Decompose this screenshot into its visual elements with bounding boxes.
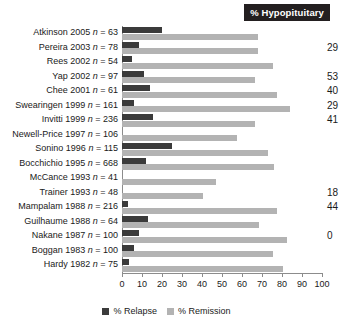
bar-relapse <box>122 71 144 77</box>
study-label: Invitti 1999 n = 236 <box>42 115 118 124</box>
bar-relapse <box>122 143 172 149</box>
study-label: Swearingen 1999 n = 161 <box>15 101 118 110</box>
bar-relapse <box>122 259 129 265</box>
x-axis-tick-label: 20 <box>157 279 167 289</box>
x-axis-tick-label: 60 <box>237 279 247 289</box>
study-label: Pereira 2003 n = 78 <box>39 43 118 52</box>
chart-row: Chee 2001 n = 6140 <box>122 85 322 100</box>
study-label: Newell-Price 1997 n = 106 <box>12 130 118 139</box>
bar-relapse <box>122 85 150 91</box>
study-label: Guilhaume 1988 n = 64 <box>24 217 118 226</box>
x-axis-tick-label: 70 <box>257 279 267 289</box>
bar-remission <box>122 164 274 170</box>
remission-swatch-icon <box>167 308 174 315</box>
relapse-swatch-icon <box>102 308 109 315</box>
bar-remission <box>122 135 237 141</box>
study-label: Bocchichio 1995 n = 668 <box>19 159 118 168</box>
study-label: Nakane 1987 n = 100 <box>32 231 118 240</box>
hypopituitary-header-badge: % Hypopituitary <box>244 4 330 21</box>
hypopituitary-value: 53 <box>327 71 343 82</box>
bar-remission <box>122 77 255 83</box>
chart-row: Yap 2002 n = 9753 <box>122 71 322 86</box>
study-label: Yap 2002 n = 97 <box>52 72 118 81</box>
study-label: Chee 2001 n = 61 <box>46 86 118 95</box>
bar-remission <box>122 222 259 228</box>
chart-row: Sonino 1996 n = 115 <box>122 143 322 158</box>
legend-item-remission: % Remission <box>167 306 231 316</box>
bar-relapse <box>122 114 153 120</box>
x-axis-tick-label: 30 <box>177 279 187 289</box>
bar-relapse <box>122 56 132 62</box>
chart-row: Invitti 1999 n = 23641 <box>122 114 322 129</box>
bar-remission <box>122 266 283 272</box>
study-label: Sonino 1996 n = 115 <box>35 144 118 153</box>
hypopituitary-value: 18 <box>327 187 343 198</box>
bar-remission <box>122 92 277 98</box>
hypopituitary-value: 41 <box>327 114 343 125</box>
bar-remission <box>122 106 290 112</box>
study-label: Hardy 1982 n = 75 <box>44 260 118 269</box>
x-axis-tick <box>322 273 323 277</box>
legend-label-remission: % Remission <box>178 306 231 316</box>
x-axis-tick-label: 0 <box>119 279 124 289</box>
bar-relapse <box>122 216 148 222</box>
chart-row: Hardy 1982 n = 75 <box>122 259 322 274</box>
chart-row: Rees 2002 n = 54 <box>122 56 322 71</box>
legend-label-relapse: % Relapse <box>113 306 157 316</box>
study-label: Trainer 1993 n = 48 <box>40 188 119 197</box>
x-axis-tick-label: 90 <box>297 279 307 289</box>
bar-relapse <box>122 230 139 236</box>
x-axis-tick-label: 80 <box>277 279 287 289</box>
study-label: Mampalam 1988 n = 216 <box>18 202 118 211</box>
study-label: McCance 1993 n = 41 <box>30 173 118 182</box>
bar-relapse <box>122 201 128 207</box>
chart-row: Pereira 2003 n = 7829 <box>122 42 322 57</box>
x-axis-tick-label: 50 <box>217 279 227 289</box>
hypopituitary-value: 44 <box>327 201 343 212</box>
bar-remission <box>122 150 268 156</box>
chart-row: McCance 1993 n = 41 <box>122 172 322 187</box>
hypopituitary-value: 40 <box>327 85 343 96</box>
study-label: Atkinson 2005 n = 63 <box>33 28 118 37</box>
chart-row: Guilhaume 1988 n = 64 <box>122 216 322 231</box>
bar-remission <box>122 237 287 243</box>
x-axis-tick-label: 10 <box>137 279 147 289</box>
bar-remission <box>122 179 216 185</box>
bar-relapse <box>122 245 134 251</box>
hypopituitary-value: 0 <box>327 230 343 241</box>
study-label: Rees 2002 n = 54 <box>47 57 118 66</box>
bar-relapse <box>122 100 134 106</box>
chart-row: Trainer 1993 n = 4818 <box>122 187 322 202</box>
study-label: Boggan 1983 n = 100 <box>32 246 118 255</box>
bar-remission <box>122 34 258 40</box>
chart-row: Nakane 1987 n = 1000 <box>122 230 322 245</box>
chart-row: Mampalam 1988 n = 21644 <box>122 201 322 216</box>
bar-remission <box>122 208 277 214</box>
bar-remission <box>122 121 255 127</box>
x-axis-tick-label: 40 <box>197 279 207 289</box>
plot-area: 0102030405060708090100Atkinson 2005 n = … <box>122 26 322 273</box>
bar-relapse <box>122 27 162 33</box>
bar-relapse <box>122 42 139 48</box>
bar-remission <box>122 48 258 54</box>
x-axis-tick-label: 100 <box>314 279 329 289</box>
hypopituitary-value: 29 <box>327 42 343 53</box>
bar-remission <box>122 193 203 199</box>
bar-remission <box>122 251 273 257</box>
chart-row: Boggan 1983 n = 100 <box>122 245 322 260</box>
chart-legend: % Relapse % Remission <box>0 306 333 316</box>
bar-remission <box>122 63 273 69</box>
legend-item-relapse: % Relapse <box>102 306 157 316</box>
chart-row: Swearingen 1999 n = 16129 <box>122 100 322 115</box>
hypopituitary-value: 29 <box>327 100 343 111</box>
bar-relapse <box>122 158 146 164</box>
chart-row: Atkinson 2005 n = 63 <box>122 27 322 42</box>
chart-row: Newell-Price 1997 n = 106 <box>122 129 322 144</box>
chart-row: Bocchichio 1995 n = 668 <box>122 158 322 173</box>
